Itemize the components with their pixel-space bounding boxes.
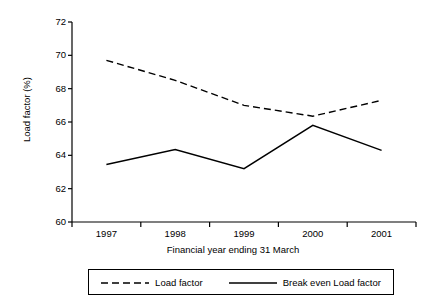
legend-item[interactable]: Break even Load factor — [229, 277, 381, 288]
x-tick-label: 1999 — [214, 228, 274, 239]
legend-item[interactable]: Load factor — [101, 277, 203, 288]
chart-figure: Load factor (%) 60626466687072 199719981… — [0, 0, 444, 306]
dashed-line-icon — [101, 281, 149, 283]
legend-label: Load factor — [155, 277, 203, 288]
x-tick-label: 2001 — [352, 228, 412, 239]
plot-area — [0, 0, 444, 306]
x-axis-title: Financial year ending 31 March — [72, 244, 394, 255]
x-tick-label: 1998 — [145, 228, 205, 239]
x-tick-label: 2000 — [283, 228, 343, 239]
legend-label: Break even Load factor — [283, 277, 381, 288]
series-line-break-even-load-factor — [106, 125, 381, 168]
x-tick-label: 1997 — [76, 228, 136, 239]
solid-line-icon — [229, 281, 277, 283]
series-line-load-factor — [106, 60, 381, 116]
chart-legend: Load factorBreak even Load factor — [88, 269, 394, 295]
